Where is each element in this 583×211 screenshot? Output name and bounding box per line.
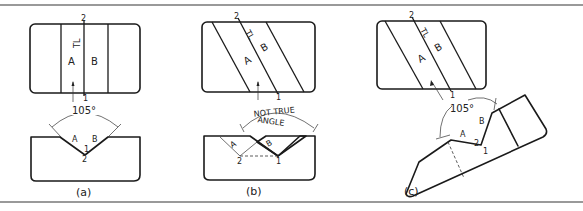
panel-b-front-view: NOT TRUE ANGLE A B 2 1 (b) — [204, 105, 318, 198]
face-a-label: A — [460, 130, 466, 139]
arrow-head-icon — [430, 80, 434, 86]
arrow-head-icon — [257, 81, 260, 86]
panel-c-aux-view: 105° A B 2 1 (c) — [404, 95, 547, 198]
panel-c-top-view: 2 TL A B 1 — [377, 11, 486, 100]
face-b-label: B — [91, 56, 98, 67]
true-length-label: TL — [418, 26, 431, 40]
point-1-label: 1 — [450, 91, 455, 100]
point-1-label: 1 — [83, 94, 88, 103]
face-b-label: B — [259, 41, 271, 54]
angle-105-label: 105° — [450, 103, 474, 114]
panel-c: 2 TL A B 1 105° A B 2 1 (c) — [377, 11, 547, 198]
caption-a: (a) — [76, 186, 91, 199]
true-length-label: TL — [73, 38, 82, 49]
panel-a-front-view: 105° A B 1 2 (a) — [31, 104, 140, 199]
face-a-label: A — [72, 135, 78, 144]
point-2-label: 2 — [409, 11, 414, 20]
face-b-label: B — [92, 135, 98, 144]
dihedral-angle-figure: 2 TL A B 1 105° A B 1 2 (a) — [0, 0, 583, 211]
point-2-label: 2 — [234, 12, 239, 21]
panel-b-top-view: 2 TL A B 1 — [202, 12, 315, 102]
face-a-label: A — [416, 52, 428, 65]
angle-105-label: 105° — [72, 105, 96, 116]
point-1-label: 1 — [276, 93, 281, 102]
point-1-label: 1 — [483, 147, 488, 156]
caption-c: (c) — [404, 185, 419, 198]
point-1-label: 1 — [84, 145, 89, 154]
not-true-angle-label-2: ANGLE — [257, 115, 285, 128]
face-b-label: B — [433, 41, 445, 54]
face-a-label: A — [229, 139, 239, 150]
point-2-label: 2 — [474, 139, 479, 148]
point-2-label: 2 — [81, 14, 86, 23]
caption-b: (b) — [246, 185, 262, 198]
face-a-label: A — [242, 54, 254, 67]
face-b-label: B — [479, 117, 485, 126]
point-2-label: 2 — [237, 157, 242, 166]
face-a-label: A — [68, 56, 75, 67]
point-1-label: 1 — [276, 157, 281, 166]
panel-b: 2 TL A B 1 NOT TRUE ANGLE A B 2 1 (b) — [202, 12, 318, 198]
arrow-head-icon — [72, 81, 75, 86]
panel-a: 2 TL A B 1 105° A B 1 2 (a) — [30, 14, 140, 199]
point-2-label: 2 — [82, 155, 87, 164]
panel-a-top-view: 2 TL A B 1 — [30, 14, 140, 103]
